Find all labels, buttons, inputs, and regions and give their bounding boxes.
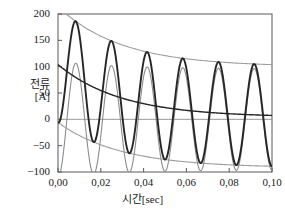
series-dc-offset-decay [58,65,272,116]
curves-group [58,7,272,178]
series-asymmetrical-short-circuit-current [58,21,272,166]
plot-canvas [0,0,285,220]
chart-figure: 전류 [A] 시간[sec] −100−50050100150200 0,000… [0,0,285,220]
plot-frame [58,14,272,172]
series-upper-envelope [58,7,272,65]
